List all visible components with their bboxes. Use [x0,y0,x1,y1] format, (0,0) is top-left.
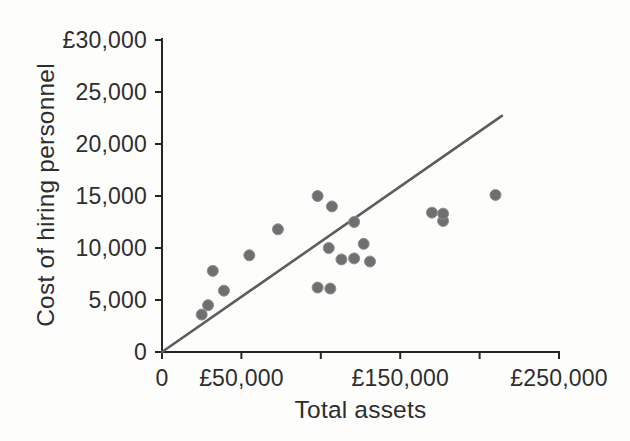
x-tick-label: 0 [156,365,169,391]
data-point [426,207,437,218]
y-tick-label: 0 [134,339,147,365]
y-tick-label: £30,000 [62,27,147,53]
x-axis-title: Total assets [295,396,427,423]
trend-line-group [162,116,502,352]
trend-line [162,116,502,352]
y-tick-label: 20,000 [75,131,147,157]
y-axis-title: Cost of hiring personnel [32,63,59,327]
y-tick-label: 15,000 [75,183,147,209]
scatter-plot-figure: 0£50,000£150,000£250,00005,00010,00015,0… [0,0,630,441]
x-tick-label: £50,000 [199,365,284,391]
y-tick-label: 5,000 [88,287,147,313]
data-point [272,224,283,235]
x-tick-label: £150,000 [351,365,449,391]
data-point [312,191,323,202]
data-point [244,250,255,261]
data-point [323,243,334,254]
data-point [312,282,323,293]
data-point [365,256,376,267]
y-tick-label: 10,000 [75,235,147,261]
data-point [218,285,229,296]
data-point [325,283,336,294]
data-point [349,253,360,264]
data-point [326,201,337,212]
data-point [336,254,347,265]
data-point [203,300,214,311]
data-point [196,309,207,320]
data-point [358,238,369,249]
chart-canvas: 0£50,000£150,000£250,00005,00010,00015,0… [0,0,630,441]
data-point [207,265,218,276]
data-point [490,189,501,200]
scatter-points-group [196,189,501,320]
data-point [438,208,449,219]
data-point [349,217,360,228]
x-tick-label: £250,000 [510,365,608,391]
y-tick-label: 25,000 [75,79,147,105]
